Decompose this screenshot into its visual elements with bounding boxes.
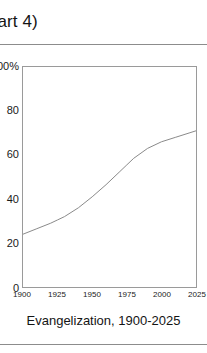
data-line-evangelization [23, 131, 196, 234]
x-tick-label: 1900 [13, 290, 31, 300]
y-axis-tick-labels: 100%806040200 [0, 45, 22, 295]
x-tick-label: 1975 [118, 290, 136, 300]
y-tick-label: 100% [0, 61, 19, 72]
footer-divider [0, 344, 207, 345]
y-tick-label: 20 [7, 238, 19, 249]
figure-evangelization: 100%806040200 190019251950197520002025 E… [0, 45, 207, 344]
x-tick-label: 1950 [83, 290, 101, 300]
x-tick-label: 2025 [188, 290, 206, 300]
line-chart-svg [23, 67, 196, 287]
y-tick-label: 40 [7, 194, 19, 205]
figure-caption: Evangelization, 1900-2025 [0, 313, 207, 329]
page-header: Part 4) [0, 0, 207, 45]
y-tick-label: 80 [7, 105, 19, 116]
plot-area [22, 66, 197, 288]
page-title-fragment: Part 4) [0, 11, 38, 32]
x-axis-tick-labels: 190019251950197520002025 [0, 290, 207, 304]
x-tick-label: 1925 [48, 290, 66, 300]
x-tick-label: 2000 [153, 290, 171, 300]
y-tick-label: 60 [7, 149, 19, 160]
